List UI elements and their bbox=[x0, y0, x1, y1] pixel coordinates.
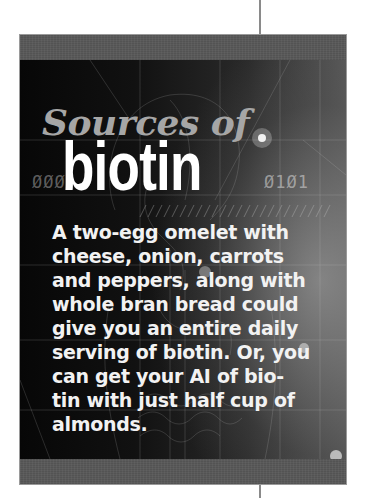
body-line: A two-egg omelet with bbox=[52, 220, 342, 244]
title-biotin: biotin bbox=[62, 132, 202, 200]
decor-binary-right: Ø1Ø1 bbox=[264, 174, 309, 191]
vertical-rule-top bbox=[259, 0, 261, 36]
decor-binary-left: ØØØ bbox=[32, 174, 66, 191]
bottom-gray-band bbox=[20, 459, 346, 484]
vertical-rule-bottom bbox=[259, 483, 261, 498]
body-line: cheese, onion, carrots bbox=[52, 244, 342, 268]
body-line: can get your AI of bio- bbox=[52, 364, 342, 388]
anatomy-background-art: ØØØ Ø1Ø1 Sources of biotin A two-egg ome… bbox=[20, 60, 346, 459]
body-line: serving of biotin. Or, you bbox=[52, 340, 342, 364]
biotin-sidebar-panel: ØØØ Ø1Ø1 Sources of biotin A two-egg ome… bbox=[20, 35, 346, 484]
body-line: almonds. bbox=[52, 412, 342, 436]
top-gray-band bbox=[20, 35, 346, 60]
body-paragraph: A two-egg omelet with cheese, onion, car… bbox=[52, 220, 342, 436]
body-line: and peppers, along with bbox=[52, 268, 342, 292]
body-line: whole bran bread could bbox=[52, 292, 342, 316]
body-line: give you an entire daily bbox=[52, 316, 342, 340]
body-line: tin with just half cup of bbox=[52, 388, 342, 412]
